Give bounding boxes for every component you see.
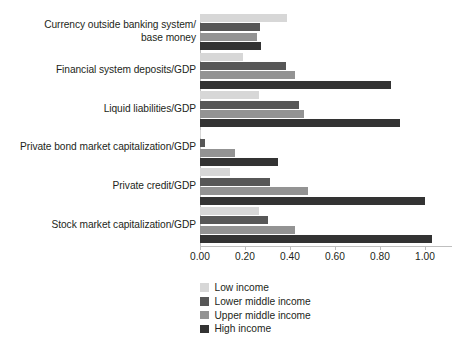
tick-mark	[380, 246, 381, 250]
tick-mark	[200, 246, 201, 250]
tick-label: 0.40	[280, 251, 300, 262]
category-label: Financial system deposits/GDP	[0, 64, 196, 76]
bar	[200, 23, 260, 31]
bar	[200, 130, 201, 138]
legend-swatch-high-income	[200, 325, 209, 334]
bar	[200, 178, 270, 186]
category-label: Private credit/GDP	[0, 180, 196, 192]
bar	[200, 235, 432, 243]
bar-group	[200, 91, 469, 129]
bar	[200, 139, 205, 147]
bar	[200, 81, 391, 89]
bar	[200, 62, 286, 70]
bar-group	[200, 53, 469, 91]
legend-item[interactable]: High income	[200, 322, 440, 335]
bar	[200, 91, 259, 99]
chart-legend: Low incomeLower middle incomeUpper middl…	[200, 281, 440, 336]
bars-container	[200, 0, 469, 246]
tick-label: 1.00	[415, 251, 435, 262]
bar	[200, 33, 257, 41]
category-label: Private bond market capitalization/GDP	[0, 141, 196, 153]
tick-label: 0.20	[235, 251, 255, 262]
legend-label: Low income	[215, 282, 269, 293]
category-label-line: Liquid liabilities/GDP	[0, 103, 196, 115]
tick-mark	[335, 246, 336, 250]
category-label: Liquid liabilities/GDP	[0, 103, 196, 115]
tick-label: 0.00	[190, 251, 210, 262]
tick-label: 0.80	[370, 251, 390, 262]
legend-swatch-upper-middle-income	[200, 311, 209, 320]
category-axis-labels: Currency outside banking system/base mon…	[0, 0, 196, 246]
bar	[200, 197, 425, 205]
bar	[200, 226, 295, 234]
category-label-line: base money	[0, 32, 196, 44]
category-label: Currency outside banking system/base mon…	[0, 19, 196, 44]
bar	[200, 216, 268, 224]
legend-item[interactable]: Lower middle income	[200, 295, 440, 308]
bar	[200, 207, 259, 215]
legend-swatch-low-income	[200, 283, 209, 292]
category-label: Stock market capitalization/GDP	[0, 219, 196, 231]
bar	[200, 53, 243, 61]
bar	[200, 119, 400, 127]
bar-chart: Currency outside banking system/base mon…	[0, 0, 469, 355]
legend-item[interactable]: Low income	[200, 281, 440, 294]
tick-mark	[245, 246, 246, 250]
x-axis-ticks: 0.000.200.400.600.801.00	[0, 246, 469, 264]
category-label-line: Stock market capitalization/GDP	[0, 219, 196, 231]
bar	[200, 71, 295, 79]
legend-label: Upper middle income	[215, 310, 311, 321]
bar-group	[200, 207, 469, 245]
plot-area: Currency outside banking system/base mon…	[0, 0, 469, 262]
tick-label: 0.60	[325, 251, 345, 262]
category-label-line: Private bond market capitalization/GDP	[0, 141, 196, 153]
bar	[200, 168, 230, 176]
bar	[200, 14, 287, 22]
category-label-line: Currency outside banking system/	[0, 19, 196, 31]
bar	[200, 110, 304, 118]
category-label-line: Private credit/GDP	[0, 180, 196, 192]
legend-label: Lower middle income	[215, 296, 311, 307]
bar	[200, 149, 235, 157]
bar-group	[200, 130, 469, 168]
legend-item[interactable]: Upper middle income	[200, 309, 440, 322]
legend-label: High income	[215, 323, 272, 334]
legend-swatch-lower-middle-income	[200, 297, 209, 306]
bar	[200, 158, 278, 166]
bar	[200, 187, 308, 195]
bar	[200, 42, 261, 50]
tick-mark	[425, 246, 426, 250]
category-label-line: Financial system deposits/GDP	[0, 64, 196, 76]
tick-mark	[290, 246, 291, 250]
bar-group	[200, 14, 469, 52]
bar-group	[200, 168, 469, 206]
bar	[200, 101, 299, 109]
